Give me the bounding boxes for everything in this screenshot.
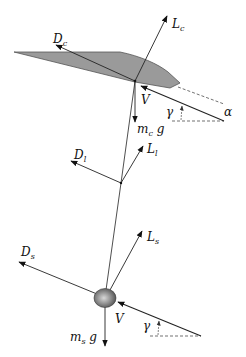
canopy-gamma-arc-arrow bbox=[181, 106, 182, 120]
canopy-alpha-label: α bbox=[224, 105, 232, 119]
payload-sphere bbox=[94, 289, 116, 308]
link-drag-label: Dl bbox=[73, 148, 87, 164]
canopy-chord-reference-dashed bbox=[178, 87, 224, 104]
payload-lift-label: Ls bbox=[146, 230, 159, 246]
payload-drag-label: Ds bbox=[20, 245, 35, 261]
payload-group: Ls Ds V γ ms g bbox=[19, 230, 201, 346]
link-drag-arrow bbox=[71, 161, 121, 183]
link-lift-arrow bbox=[121, 146, 143, 183]
force-diagram: Lc Dc V γ α mc g Ll Dl Ls Ds bbox=[0, 0, 246, 357]
canopy-velocity-label: V bbox=[141, 93, 151, 107]
canopy-lift-label: Lc bbox=[171, 17, 185, 33]
canopy-gamma-label: γ bbox=[166, 105, 174, 119]
payload-velocity-label: V bbox=[115, 312, 125, 326]
canopy-group: Lc Dc V γ α mc g bbox=[14, 16, 232, 138]
payload-weight-label: ms g bbox=[70, 330, 97, 346]
upper-suspension-line bbox=[121, 81, 135, 183]
link-group: Ll Dl bbox=[71, 142, 158, 184]
payload-gamma-label: γ bbox=[143, 319, 151, 333]
canopy-drag-label: Dc bbox=[52, 32, 68, 48]
canopy-weight-label: mc g bbox=[137, 122, 165, 138]
payload-lift-arrow bbox=[110, 231, 142, 290]
payload-gamma-arc-arrow bbox=[158, 321, 159, 335]
link-lift-label: Ll bbox=[146, 142, 158, 158]
canopy-velocity-arrow bbox=[141, 86, 224, 121]
payload-drag-arrow bbox=[19, 262, 97, 294]
canopy-airfoil bbox=[14, 52, 180, 88]
link-point bbox=[120, 182, 122, 184]
payload-velocity-arrow bbox=[118, 302, 201, 336]
